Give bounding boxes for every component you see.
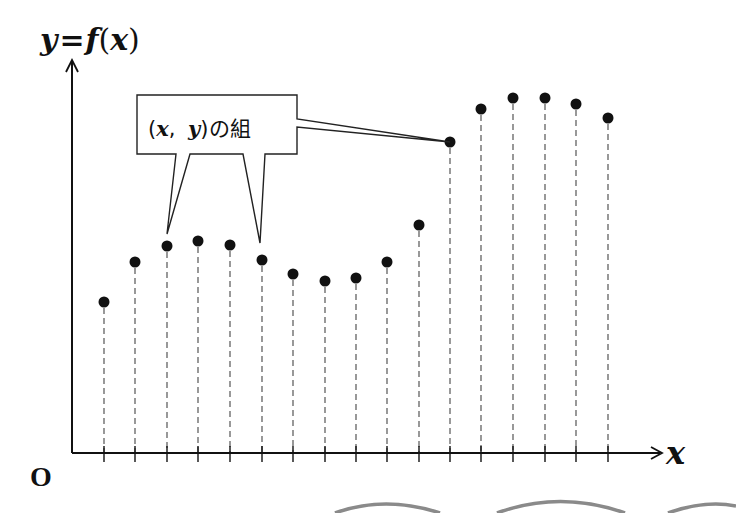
y-axis-label: y=f(x)	[39, 22, 140, 57]
x-axis-label: x	[665, 434, 686, 472]
data-point	[193, 236, 204, 247]
data-point	[603, 113, 614, 124]
data-point	[571, 99, 582, 110]
function-diagram: (x, y)の組 y=f(x) x O	[0, 0, 736, 513]
data-point	[99, 297, 110, 308]
data-point	[288, 269, 299, 280]
data-point	[320, 276, 331, 287]
data-point	[257, 255, 268, 266]
origin-label: O	[30, 461, 52, 492]
data-point	[508, 93, 519, 104]
data-point	[540, 93, 551, 104]
data-point	[476, 104, 487, 115]
data-point	[162, 241, 173, 252]
data-point	[382, 257, 393, 268]
decorative-arcs	[335, 502, 736, 513]
callout-balloon: (x, y)の組	[137, 95, 450, 243]
data-point	[130, 257, 141, 268]
data-point	[225, 240, 236, 251]
callout-label: (x, y)の組	[148, 116, 251, 141]
data-point	[414, 220, 425, 231]
data-point	[351, 273, 362, 284]
